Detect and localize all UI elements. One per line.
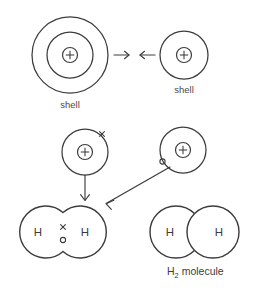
top-right-atom-shell-label: shell (174, 84, 194, 95)
bonded-molecule-left-h-label: H (34, 226, 42, 238)
top-left-atom (32, 17, 108, 93)
top-arrow-left-icon (140, 51, 155, 58)
top-arrow-right-icon (114, 51, 129, 58)
h2-caption-element: H (167, 265, 175, 277)
middle-right-atom (160, 127, 206, 173)
bonded-molecule: H H (20, 206, 107, 258)
overlap-molecule: H H (150, 206, 239, 258)
overlap-molecule-left-h-label: H (166, 226, 174, 238)
overlap-molecule-right-h-label: H (215, 226, 223, 238)
chemistry-diagram: shell shell (0, 0, 257, 288)
arrow-down-from-left-atom-icon (81, 175, 90, 201)
top-left-atom-shell-label: shell (60, 99, 80, 110)
top-right-atom (160, 31, 208, 79)
diagram-canvas: shell shell (0, 0, 257, 288)
middle-left-atom (62, 129, 108, 175)
bonded-molecule-outline (20, 206, 107, 258)
bonded-molecule-right-h-label: H (81, 226, 89, 238)
overlap-molecule-right-circle (187, 206, 239, 258)
h2-caption-tail: molecule (179, 265, 224, 277)
h2-molecule-caption: H2 molecule (167, 265, 224, 280)
arrow-diagonal-from-right-atom-icon (106, 167, 170, 209)
